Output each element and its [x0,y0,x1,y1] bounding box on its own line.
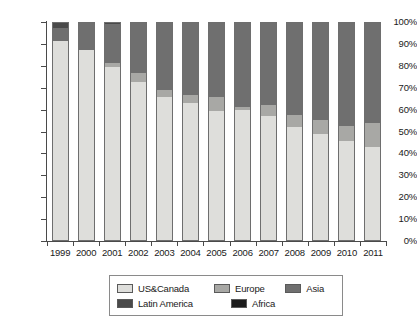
bar-2010 [338,22,355,241]
bar-segment [105,24,120,63]
bar-2005 [208,22,225,241]
bar-segment [261,105,276,116]
plot-area [47,22,386,241]
x-axis-tick-mark [386,242,387,246]
bar-2002 [130,22,147,241]
stacked-bar-chart: 100%90%80%70%60%50%40%30%20%10%0% 199920… [0,0,417,326]
legend-label: Asia [306,284,324,294]
bar-2008 [286,22,303,241]
x-axis-tick-mark [99,242,100,246]
bar-segment [209,111,224,240]
bar-2003 [156,22,173,241]
x-axis-tick-mark [334,242,335,246]
bar-segment [339,141,354,240]
bar-2000 [78,22,95,241]
y-axis-tick-mark [41,88,46,89]
legend-label: Europe [235,284,264,294]
bar-segment [131,23,146,73]
bar-segment [209,23,224,97]
y-axis-tick-mark [41,110,46,111]
legend-row: Latin AmericaAfrica [117,296,335,311]
bar-segment [79,50,94,240]
bar-segment [313,23,328,120]
bar-segment [235,23,250,107]
y-axis-tick-mark [41,66,46,67]
x-axis-tick-mark [125,242,126,246]
legend-entry: Latin America [117,299,220,309]
bar-segment [183,103,198,240]
y-axis-tick-mark [41,219,46,220]
x-axis-tick-mark [256,242,257,246]
legend-entry: Europe [214,284,274,294]
bar-segment [261,116,276,240]
bar-2007 [260,22,277,241]
x-axis-tick-mark [73,242,74,246]
x-axis-tick-mark [203,242,204,246]
x-axis-tick-mark [282,242,283,246]
bar-segment [313,134,328,240]
bar-segment [183,95,198,104]
bar-segment [235,110,250,240]
legend-entry: US&Canada [117,284,203,294]
y-axis-tick-mark [41,153,46,154]
bar-2009 [312,22,329,241]
legend-row: US&CanadaEuropeAsia [117,281,335,296]
bar-segment [53,41,68,240]
bar-segment [339,126,354,141]
bar-segment [105,67,120,240]
legend-swatch-icon [285,284,301,293]
x-axis-tick-mark [308,242,309,246]
legend-label: US&Canada [138,284,189,294]
bar-segment [365,23,380,123]
x-axis-tick-mark [47,242,48,246]
bar-segment [53,28,68,41]
bar-segment [287,127,302,240]
legend-entry: Asia [285,284,324,294]
legend-label: Latin America [138,299,193,309]
y-axis-tick-mark [41,22,46,23]
bar-segment [365,147,380,240]
bar-1999 [52,22,69,241]
x-axis-tick-mark [360,242,361,246]
chart-legend: US&CanadaEuropeAsiaLatin AmericaAfrica [109,275,343,316]
legend-swatch-icon [117,299,133,308]
bar-segment [157,97,172,240]
bar-segment [79,23,94,50]
x-axis-tick-mark [177,242,178,246]
bar-segment [339,23,354,126]
legend-swatch-icon [231,299,247,308]
bar-segment [287,23,302,115]
bar-segment [365,123,380,147]
legend-entry: Africa [231,299,303,309]
y-axis-tick-mark [41,132,46,133]
y-axis-tick-mark [41,175,46,176]
bar-segment [131,82,146,240]
y-axis-tick-mark [41,241,46,242]
x-axis-line [46,241,387,242]
bar-2006 [234,22,251,241]
bar-2001 [104,22,121,241]
legend-swatch-icon [117,284,133,293]
bar-segment [131,73,146,82]
bar-segment [157,23,172,90]
x-axis-tick-labels: 1999200020012002200320042005200620072008… [47,247,386,261]
bar-segment [287,115,302,127]
bar-segment [209,97,224,111]
legend-label: Africa [252,299,275,309]
bar-2011 [364,22,381,241]
bar-segment [183,23,198,95]
y-axis-tick-mark [41,44,46,45]
x-axis-tick-label: 2011 [356,247,390,258]
y-axis-tick-mark [41,197,46,198]
bar-segment [261,23,276,105]
x-axis-tick-mark [151,242,152,246]
bar-segment [313,120,328,134]
legend-swatch-icon [214,284,230,293]
bar-2004 [182,22,199,241]
x-axis-tick-mark [230,242,231,246]
